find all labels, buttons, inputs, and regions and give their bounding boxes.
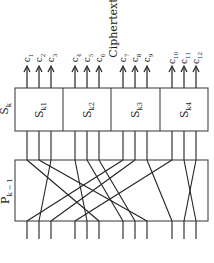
output-label-c4: c4 [70, 53, 82, 62]
sbox-row-label: Sk [0, 102, 13, 115]
spn-diagram: Ciphertextc1c2c3c4c5c6c7c8c9c10c11c12Sk1… [0, 0, 214, 263]
output-label-c2: c2 [34, 54, 46, 63]
output-label-c12: c12 [191, 52, 203, 64]
output-label-c11: c11 [179, 52, 191, 64]
permutation-wire [147, 160, 172, 221]
permutation-wire [75, 160, 87, 221]
permutation-wire [75, 160, 172, 221]
output-label-c9: c9 [142, 53, 154, 62]
perm-label: Pk − 1 [0, 178, 14, 204]
permutation-wire [27, 160, 123, 221]
permutation-box [15, 160, 208, 221]
output-label-c8: c8 [130, 53, 142, 62]
output-label-c5: c5 [82, 53, 94, 62]
output-label-c6: c6 [94, 53, 106, 62]
title-ciphertext: Ciphertext [107, 0, 120, 58]
output-label-c10: c10 [167, 51, 179, 64]
output-label-c3: c3 [46, 53, 58, 62]
output-label-c1: c1 [22, 54, 34, 63]
